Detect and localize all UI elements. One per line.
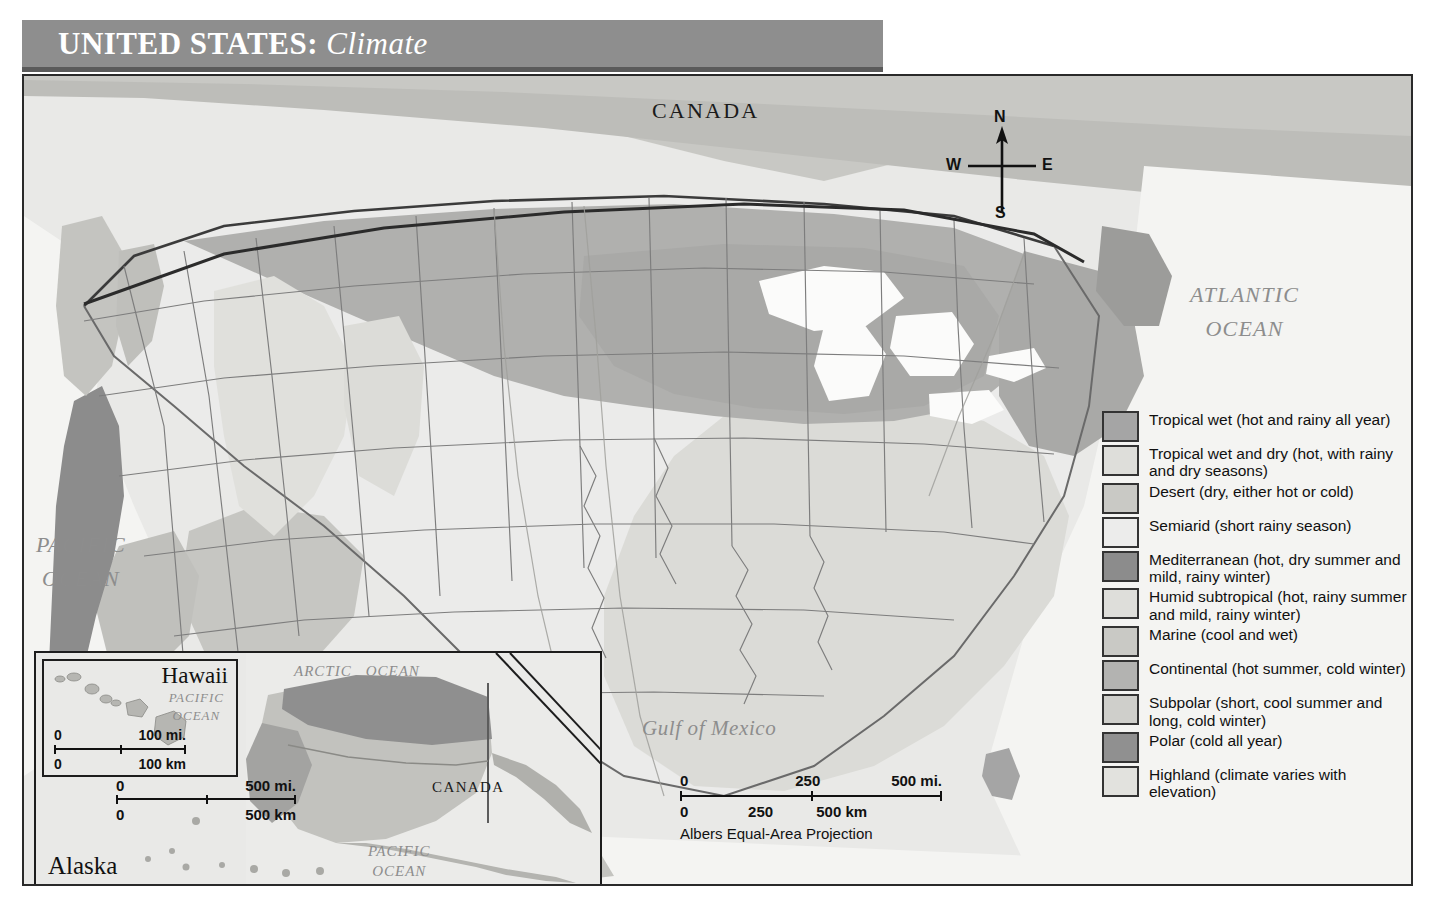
alaska-pacific-line-2: OCEAN — [368, 861, 431, 881]
map-page: UNITED STATES: Climate — [0, 0, 1431, 908]
map-legend: Tropical wet (hot and rainy all year)Tro… — [1102, 410, 1413, 803]
legend-swatch — [1102, 660, 1139, 691]
legend-swatch — [1102, 588, 1139, 619]
legend-label: Polar (cold all year) — [1149, 731, 1283, 749]
compass-rose: N S W E — [946, 108, 1058, 226]
alaska-km-end: 500 km — [245, 806, 296, 823]
inset-map-alaska: Hawaii PACIFIC OCEAN 0 100 mi. 0 100 km — [34, 651, 602, 886]
legend-label: Highland (climate varies with elevation) — [1149, 765, 1413, 801]
legend-item: Subpolar (short, cool summer and long, c… — [1102, 693, 1413, 729]
hawaii-miles-end: 100 mi. — [139, 727, 186, 743]
alaska-arctic-line-1: ARCTIC — [294, 661, 352, 681]
scale-miles-mid: 250 — [795, 772, 820, 789]
alaska-scale-line — [116, 795, 296, 804]
scale-bar-line — [680, 791, 942, 801]
inset-map-hawaii: Hawaii PACIFIC OCEAN 0 100 mi. 0 100 km — [42, 659, 238, 777]
title-main: UNITED STATES: — [58, 26, 318, 61]
alaska-pacific-line-1: PACIFIC — [368, 841, 431, 861]
alaska-scale-km: 0 500 km — [116, 806, 296, 822]
scale-km-labels: 0 250 500 km — [680, 803, 942, 820]
legend-label: Semiarid (short rainy season) — [1149, 516, 1351, 534]
legend-swatch — [1102, 766, 1139, 797]
alaska-miles-start: 0 — [116, 777, 124, 794]
legend-item: Semiarid (short rainy season) — [1102, 516, 1413, 548]
legend-label: Subpolar (short, cool summer and long, c… — [1149, 693, 1413, 729]
map-frame: CANADA MEXICO ATLANTIC OCEAN PACIFIC OCE… — [22, 74, 1413, 886]
alaska-arctic-ocean-label: ARCTICOCEAN — [294, 661, 420, 681]
scale-km-end: 500 km — [816, 803, 867, 820]
legend-label: Tropical wet (hot and rainy all year) — [1149, 410, 1391, 428]
legend-swatch — [1102, 732, 1139, 763]
scale-km-start: 0 — [680, 803, 688, 820]
hawaii-ocean-line-1: PACIFIC — [169, 689, 224, 707]
compass-north-label: N — [994, 108, 1006, 126]
hawaii-scale-line — [54, 745, 186, 754]
alaska-pacific-ocean-label: PACIFIC OCEAN — [368, 841, 431, 882]
legend-label: Humid subtropical (hot, rainy summer and… — [1149, 587, 1413, 623]
legend-item: Polar (cold all year) — [1102, 731, 1413, 763]
map-scale-bar: 0 250 500 mi. 0 250 500 km Albers Equal-… — [680, 772, 942, 848]
legend-item: Humid subtropical (hot, rainy summer and… — [1102, 587, 1413, 623]
legend-item: Highland (climate varies with elevation) — [1102, 765, 1413, 801]
alaska-title: Alaska — [48, 852, 117, 880]
legend-label: Mediterranean (hot, dry summer and mild,… — [1149, 550, 1413, 586]
legend-swatch — [1102, 411, 1139, 442]
title-banner: UNITED STATES: Climate — [22, 20, 883, 72]
hawaii-km-end: 100 km — [139, 756, 186, 772]
compass-south-label: S — [995, 204, 1006, 222]
alaska-scale-miles: 0 500 mi. — [116, 777, 296, 793]
legend-swatch — [1102, 483, 1139, 514]
scale-miles-end: 500 mi. — [891, 772, 942, 789]
legend-swatch — [1102, 694, 1139, 725]
hawaii-scale-miles: 0 100 mi. — [54, 727, 186, 743]
hawaii-ocean-label: PACIFIC OCEAN — [169, 689, 224, 724]
legend-item: Mediterranean (hot, dry summer and mild,… — [1102, 550, 1413, 586]
alaska-miles-end: 500 mi. — [245, 777, 296, 794]
legend-swatch — [1102, 517, 1139, 548]
legend-item: Tropical wet (hot and rainy all year) — [1102, 410, 1413, 442]
alaska-arctic-line-2: OCEAN — [366, 661, 420, 681]
compass-west-label: W — [946, 156, 961, 174]
legend-item: Marine (cool and wet) — [1102, 625, 1413, 657]
hawaii-km-start: 0 — [54, 756, 62, 772]
compass-east-label: E — [1042, 156, 1053, 174]
legend-item: Tropical wet and dry (hot, with rainy an… — [1102, 444, 1413, 480]
legend-swatch — [1102, 445, 1139, 476]
alaska-km-start: 0 — [116, 806, 124, 823]
projection-label: Albers Equal-Area Projection — [680, 825, 942, 842]
hawaii-title: Hawaii — [162, 663, 228, 689]
alaska-canada-label: CANADA — [432, 779, 505, 796]
hawaii-scale-km: 0 100 km — [54, 756, 186, 772]
legend-item: Desert (dry, either hot or cold) — [1102, 482, 1413, 514]
page-title: UNITED STATES: Climate — [58, 26, 428, 62]
legend-swatch — [1102, 551, 1139, 582]
legend-swatch — [1102, 626, 1139, 657]
legend-label: Marine (cool and wet) — [1149, 625, 1298, 643]
hawaii-scale-bar: 0 100 mi. 0 100 km — [54, 727, 186, 772]
scale-miles-start: 0 — [680, 772, 688, 789]
hawaii-ocean-line-2: OCEAN — [169, 707, 224, 725]
legend-item: Continental (hot summer, cold winter) — [1102, 659, 1413, 691]
legend-label: Continental (hot summer, cold winter) — [1149, 659, 1406, 677]
legend-label: Desert (dry, either hot or cold) — [1149, 482, 1354, 500]
title-subtitle: Climate — [326, 26, 428, 61]
alaska-scale-bar: 0 500 mi. 0 500 km — [116, 777, 296, 822]
scale-km-mid: 250 — [748, 803, 773, 820]
scale-miles-labels: 0 250 500 mi. — [680, 772, 942, 789]
legend-label: Tropical wet and dry (hot, with rainy an… — [1149, 444, 1413, 480]
hawaii-miles-start: 0 — [54, 727, 62, 743]
